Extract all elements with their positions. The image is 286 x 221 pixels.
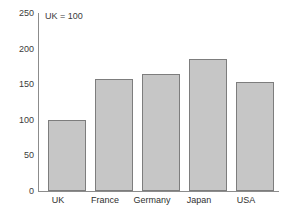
y-axis-tick-labels: 250 200 150 100 50 0 [0, 0, 34, 221]
y-tick-label: 100 [0, 116, 34, 125]
y-tick-label: 50 [0, 151, 34, 160]
x-tick-label-uk: UK [32, 195, 84, 205]
bar-uk[interactable] [48, 120, 86, 191]
x-tick-label-france: France [79, 195, 131, 205]
bar-usa[interactable] [236, 82, 274, 191]
x-tick-label-germany: Germany [126, 195, 178, 205]
y-tick-label: 0 [0, 187, 34, 196]
bar-germany[interactable] [142, 74, 180, 191]
y-tick-label: 250 [0, 9, 34, 18]
x-tick-label-japan: Japan [173, 195, 225, 205]
bar-chart-figure: countries 250 200 150 100 50 0 UK = 100 … [0, 0, 286, 221]
plot-area [38, 13, 278, 191]
x-tick-label-usa: USA [220, 195, 272, 205]
bar-japan[interactable] [189, 59, 227, 191]
x-axis-line [38, 191, 279, 192]
y-tick-label: 200 [0, 45, 34, 54]
y-tick-label: 150 [0, 80, 34, 89]
bar-france[interactable] [95, 79, 133, 191]
